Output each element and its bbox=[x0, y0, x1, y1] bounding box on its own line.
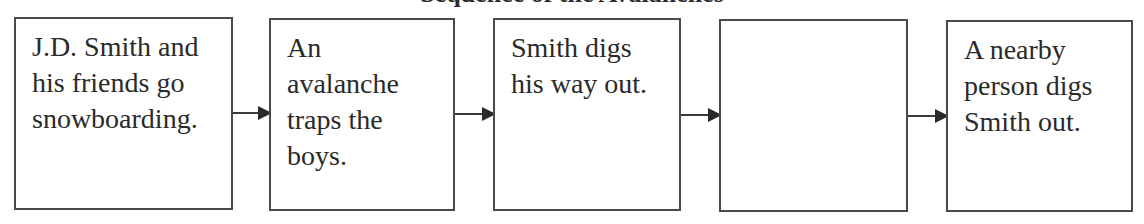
arrow-1-to-2 bbox=[233, 112, 270, 114]
flow-box-5-text: A nearby person digs Smith out. bbox=[964, 32, 1123, 140]
flow-box-3: Smith digs his way out. bbox=[493, 18, 681, 211]
diagram-title: Sequence of the Avalanches bbox=[0, 0, 1144, 7]
flow-box-4-empty bbox=[719, 19, 908, 212]
arrow-2-to-3 bbox=[455, 113, 494, 115]
arrow-4-to-5 bbox=[908, 115, 947, 117]
flow-box-1: J.D. Smith and his friends go snowboardi… bbox=[14, 17, 233, 210]
flow-box-2-text: An avalanche traps the boys. bbox=[287, 30, 445, 174]
flow-box-5: A nearby person digs Smith out. bbox=[946, 20, 1133, 212]
arrow-3-to-4 bbox=[681, 114, 720, 116]
flow-box-3-text: Smith digs his way out. bbox=[511, 30, 671, 102]
flow-box-1-text: J.D. Smith and his friends go snowboardi… bbox=[32, 29, 223, 137]
flow-box-2: An avalanche traps the boys. bbox=[269, 18, 455, 211]
